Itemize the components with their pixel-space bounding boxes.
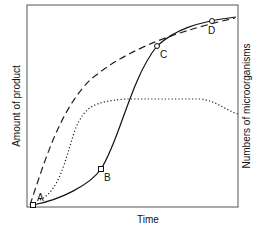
marker-b [99,167,104,172]
dashed-curve [30,18,235,205]
y-axis-label-left: Amount of product [11,65,22,147]
point-label-c: C [160,49,167,60]
product-solid-curve [33,17,236,205]
y-axis-label-right: Numbers of microorganisms [241,43,252,168]
marker-d [210,19,215,24]
marker-c [155,44,160,49]
microorganisms-dotted-curve [40,99,238,200]
point-label-a: A [37,192,44,203]
plot-frame [27,5,238,207]
x-axis-label: Time [137,214,159,225]
marker-a [31,203,36,208]
point-label-b: B [104,172,111,183]
point-label-d: D [208,25,215,36]
